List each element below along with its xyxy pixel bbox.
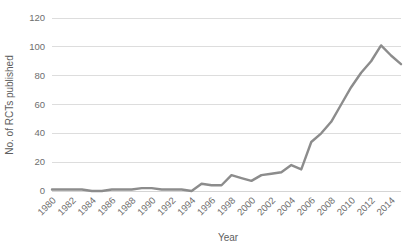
- x-tick-label: 1994: [175, 195, 198, 218]
- chart-container: 020406080100120 198019821984198619881990…: [0, 0, 417, 247]
- y-tick-label: 40: [34, 127, 45, 138]
- x-tick-label: 1986: [95, 195, 118, 218]
- y-tick-label: 100: [29, 41, 45, 52]
- x-tick-label: 1996: [195, 195, 218, 218]
- data-series-group: [52, 45, 401, 191]
- x-tick-label: 2014: [374, 195, 397, 218]
- y-axis-title: No. of RCTs published: [4, 55, 15, 155]
- gridlines-group: [52, 18, 401, 191]
- y-tick-label: 60: [34, 99, 45, 110]
- x-axis-title: Year: [218, 232, 239, 243]
- x-tick-label: 1982: [55, 195, 78, 218]
- y-tick-label: 80: [34, 70, 45, 81]
- line-chart: 020406080100120 198019821984198619881990…: [0, 0, 417, 247]
- x-tick-label: 2006: [294, 195, 317, 218]
- x-axis-tick-labels: 1980198219841986198819901992199419961998…: [35, 195, 397, 218]
- x-tick-label: 2012: [354, 195, 377, 218]
- x-tick-label: 2004: [274, 195, 297, 218]
- x-tick-label: 2010: [334, 195, 357, 218]
- data-line: [52, 45, 401, 191]
- y-tick-label: 0: [40, 185, 45, 196]
- x-tick-label: 1984: [75, 195, 98, 218]
- x-tick-label: 2000: [235, 195, 258, 218]
- x-tick-label: 2008: [314, 195, 337, 218]
- x-tick-label: 2002: [255, 195, 278, 218]
- x-tick-label: 1980: [35, 195, 58, 218]
- x-tick-label: 1990: [135, 195, 158, 218]
- y-tick-label: 120: [29, 12, 45, 23]
- y-axis-tick-labels: 020406080100120: [29, 12, 45, 196]
- x-tick-label: 1998: [215, 195, 238, 218]
- y-tick-label: 20: [34, 156, 45, 167]
- x-tick-label: 1992: [155, 195, 178, 218]
- x-tick-label: 1988: [115, 195, 138, 218]
